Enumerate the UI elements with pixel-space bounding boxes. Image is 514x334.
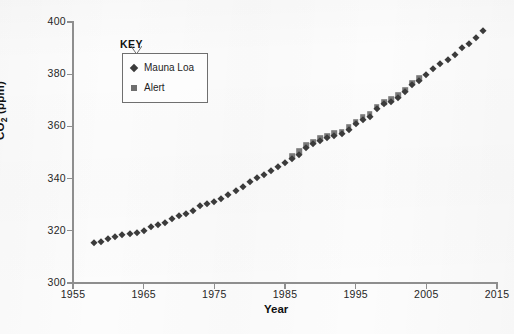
y-tick-label: 360 (0, 119, 66, 131)
y-tick-label: 320 (0, 224, 66, 236)
legend-box: Mauna Loa Alert (122, 53, 208, 103)
legend-label-mauna-loa: Mauna Loa (144, 62, 194, 73)
data-point-mauna-loa (352, 120, 360, 128)
x-tick-label: 1985 (255, 288, 315, 300)
x-axis-title: Year (264, 303, 288, 315)
y-tick-label: 340 (0, 172, 66, 184)
legend-entry-mauna-loa: Mauna Loa (131, 62, 194, 73)
x-tick-label: 1965 (114, 288, 174, 300)
data-point-mauna-loa (458, 45, 466, 53)
legend-label-alert: Alert (144, 82, 165, 93)
y-tick-label: 380 (0, 67, 66, 79)
data-point-mauna-loa (479, 27, 487, 35)
data-point-mauna-loa (281, 159, 289, 167)
y-axis-title-unit: (ppm) (0, 81, 6, 117)
data-point-mauna-loa (218, 196, 226, 204)
data-point-mauna-loa (140, 227, 148, 235)
data-point-mauna-loa (232, 187, 240, 195)
data-point-mauna-loa (126, 230, 134, 238)
data-point-mauna-loa (465, 40, 473, 48)
y-axis-title: CO2 (ppm) (0, 81, 9, 140)
data-point-mauna-loa (225, 191, 233, 199)
data-point-mauna-loa (451, 51, 459, 59)
x-tick-label: 1995 (326, 288, 386, 300)
x-tick-label: 2015 (467, 288, 514, 300)
data-point-mauna-loa (430, 65, 438, 73)
diamond-marker-icon (130, 63, 138, 71)
y-tick-label: 300 (0, 276, 66, 288)
data-point-mauna-loa (119, 231, 127, 239)
co2-scatter-chart: 300320340360380400 195519651975198519952… (0, 0, 514, 334)
y-axis-title-subscript: 2 (0, 117, 9, 122)
data-point-mauna-loa (182, 211, 190, 219)
data-point-mauna-loa (472, 34, 480, 42)
data-point-mauna-loa (253, 175, 261, 183)
y-axis-title-text: CO (0, 122, 6, 140)
data-point-mauna-loa (246, 178, 254, 186)
x-tick-label: 2005 (396, 288, 456, 300)
data-point-mauna-loa (444, 56, 452, 64)
x-tick-label: 1975 (184, 288, 244, 300)
y-tick-label: 400 (0, 15, 66, 27)
data-point-mauna-loa (189, 208, 197, 216)
data-point-mauna-loa (423, 71, 431, 79)
data-point-mauna-loa (437, 60, 445, 68)
x-tick-label: 1955 (43, 288, 103, 300)
legend-entry-alert: Alert (131, 82, 165, 93)
data-point-mauna-loa (267, 167, 275, 175)
square-marker-icon (131, 85, 137, 91)
data-point-mauna-loa (274, 163, 282, 171)
data-point-mauna-loa (239, 183, 247, 191)
data-point-mauna-loa (161, 219, 169, 227)
